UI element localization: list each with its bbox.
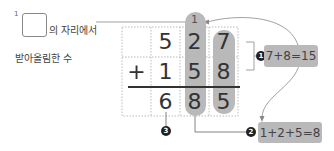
result-cell: 5 [209,87,238,117]
row1-cell: 5 [151,27,180,57]
step1-calc-box: 7+8=15 [264,45,318,67]
carry-digit: 1 [180,13,209,26]
step2-calc-box: 1+2+5=8 [258,122,322,143]
result-cell: 8 [180,87,209,117]
step1-bracket [246,42,254,70]
row2-cell: 8 [209,57,238,87]
caption-line2: 받아올림한 수 [15,50,72,65]
blank-box [22,13,47,37]
caption-line1: 의 자리에서 [49,22,97,37]
row1-cell: 2 [180,27,209,57]
step3-badge: 3 [161,126,171,136]
result-cell: 6 [151,87,180,117]
operator-plus: + [122,57,151,87]
caption-superscript: 1 [14,10,18,18]
row2-cell: 5 [180,57,209,87]
step2-curve-arrow [262,58,300,118]
row1-cell: 7 [209,27,238,57]
row2-cell: 1 [151,57,180,87]
step2-badge: 2 [246,127,256,137]
